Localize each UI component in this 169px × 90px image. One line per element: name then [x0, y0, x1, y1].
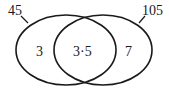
right-set-label: 105	[142, 3, 163, 18]
venn-diagram: 45 105 3 3·5 7	[0, 0, 169, 90]
right-only-region-value: 7	[125, 44, 132, 59]
left-only-region-value: 3	[36, 44, 43, 59]
left-set-ellipse	[16, 15, 116, 85]
intersection-region-value: 3·5	[73, 44, 92, 59]
left-set-label: 45	[8, 3, 22, 18]
venn-svg: 45 105 3 3·5 7	[0, 0, 169, 90]
left-set-leader-line	[21, 16, 28, 23]
